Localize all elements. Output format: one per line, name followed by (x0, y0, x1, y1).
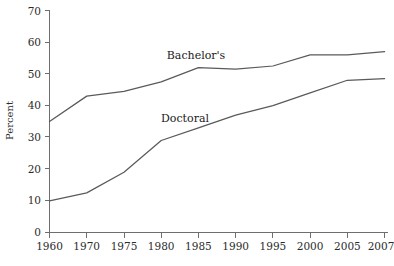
x-tick-labels: 1960 1970 1975 1980 1985 1990 1995 2000 … (36, 240, 394, 252)
y-tick-label: 60 (28, 36, 41, 48)
series-annotation-bachelors: Bachelor's (167, 49, 226, 62)
y-tick-labels: 70 60 50 40 30 20 10 0 (28, 5, 41, 239)
x-tick-label: 1995 (260, 240, 287, 252)
x-tick-label: 1970 (73, 240, 100, 252)
y-tick-label: 0 (34, 226, 41, 238)
x-tick-label: 1975 (111, 240, 138, 252)
y-axis-title: Percent (4, 101, 15, 140)
x-tick-label: 1960 (36, 240, 63, 252)
y-tick-label: 10 (28, 194, 41, 206)
x-tick-marks (50, 233, 385, 239)
series-annotation-doctoral: Doctoral (161, 112, 209, 125)
y-tick-label: 40 (28, 99, 41, 111)
x-tick-label: 2000 (297, 240, 324, 252)
x-tick-label: 1980 (148, 240, 175, 252)
y-tick-marks (45, 11, 50, 233)
x-tick-label: 1985 (185, 240, 212, 252)
chart-container: 70 60 50 40 30 20 10 0 1960 1970 1975 (0, 0, 394, 266)
x-tick-label: 2007 (368, 240, 394, 252)
x-tick-label: 1990 (222, 240, 249, 252)
series-line-doctoral (50, 79, 385, 201)
x-tick-label: 2005 (334, 240, 361, 252)
y-tick-label: 70 (28, 5, 41, 17)
y-tick-label: 20 (28, 163, 41, 175)
line-chart-plot: 70 60 50 40 30 20 10 0 1960 1970 1975 (0, 0, 394, 266)
series-line-bachelors (50, 52, 385, 122)
y-tick-label: 50 (28, 68, 41, 80)
y-tick-label: 30 (28, 131, 41, 143)
